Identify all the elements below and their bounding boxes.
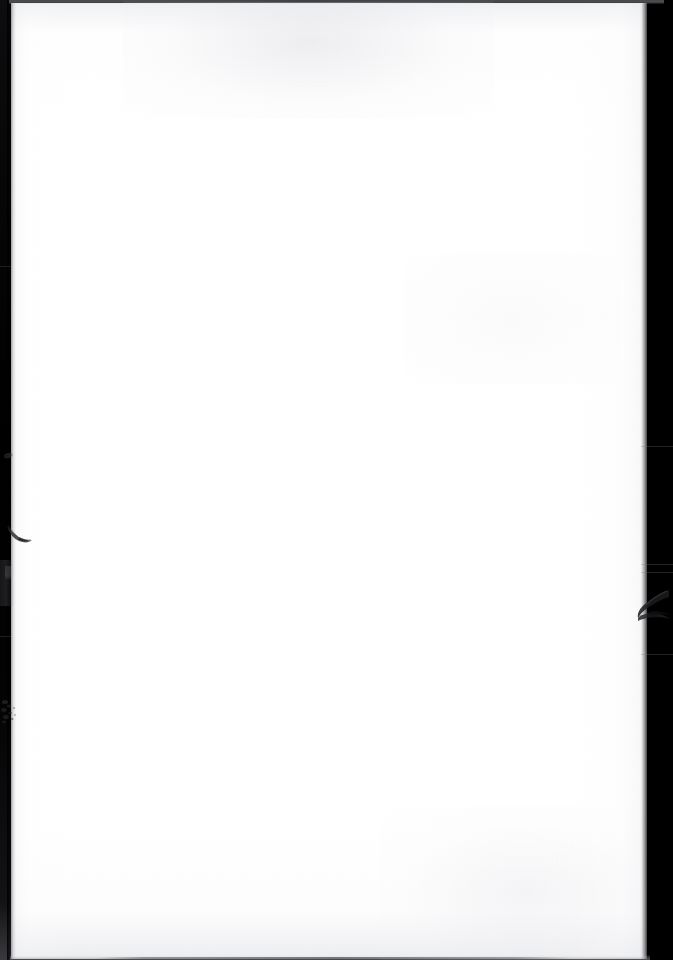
page-sheet — [8, 3, 647, 959]
top-page-edge-line — [60, 0, 600, 2]
right-edge-shadow — [640, 0, 648, 960]
left-edge-shadow — [7, 0, 16, 960]
right-scanner-bed — [647, 0, 673, 960]
page-text-content — [8, 3, 647, 959]
scanned-page-viewport — [0, 0, 673, 960]
